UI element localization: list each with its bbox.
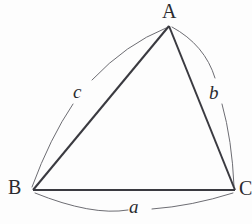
side-arcs-group (32, 27, 234, 211)
side-label-a: a (129, 197, 139, 216)
side-label-c: c (73, 82, 81, 101)
triangle-figure (0, 0, 252, 224)
side-label-b: b (209, 83, 219, 102)
vertex-label-b: B (8, 177, 21, 197)
edge-side-c-AB (33, 26, 169, 190)
arc-side-a-left (35, 193, 128, 211)
vertex-label-a: A (162, 1, 176, 21)
vertex-label-c: C (239, 178, 252, 198)
arc-side-c-lower (32, 104, 73, 187)
edge-side-b-CA (169, 26, 235, 190)
arc-side-a-right (152, 193, 233, 209)
arc-side-c-upper (92, 28, 166, 80)
arc-side-b-upper (172, 27, 215, 78)
triangle-edges-group (33, 26, 235, 190)
diagram-canvas: A B C a b c (0, 0, 252, 224)
